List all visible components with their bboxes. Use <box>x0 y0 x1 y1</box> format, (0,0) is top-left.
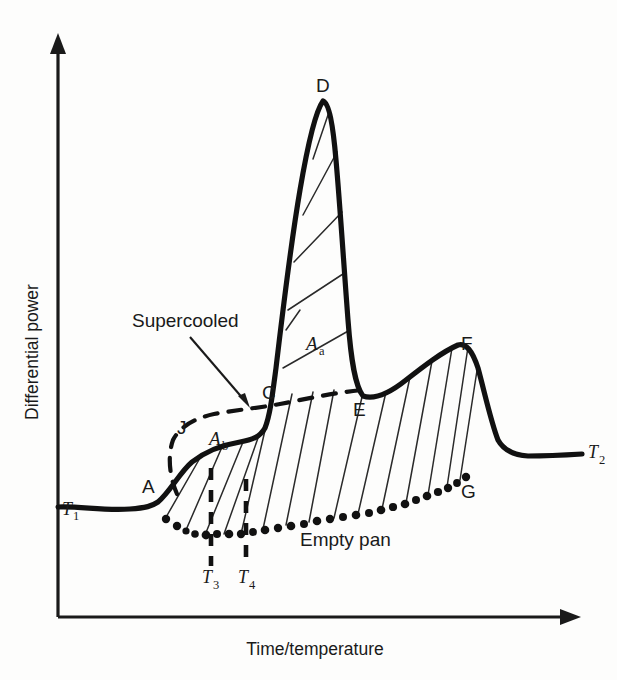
temp-label-t3-sub: 3 <box>213 578 219 592</box>
sample-curve <box>58 101 582 509</box>
supercooled-label: Supercooled <box>132 310 239 331</box>
temp-label-t2: T 2 <box>588 442 605 467</box>
point-label-j: J <box>177 417 187 438</box>
x-axis-arrowhead <box>560 609 581 625</box>
point-label-d: D <box>316 75 330 96</box>
area-label-aa-base: A <box>304 333 318 354</box>
temp-label-t2-sub: 2 <box>599 453 605 467</box>
point-label-a: A <box>142 476 155 497</box>
temp-label-t4-sub: 4 <box>249 578 256 592</box>
point-label-e: E <box>353 399 366 420</box>
y-axis-label: Differential power <box>22 284 42 420</box>
dsc-chart-svg: Differential power Time/temperature <box>0 0 617 680</box>
temp-label-t1: T 1 <box>62 499 79 523</box>
area-label-ab-sub: b <box>222 439 228 453</box>
y-axis-arrowhead <box>50 33 66 54</box>
temp-label-t4: T 4 <box>238 567 256 592</box>
point-label-f: F <box>461 333 473 354</box>
temp-label-t3: T 3 <box>202 567 219 592</box>
supercooled-dashed-curve <box>170 390 362 494</box>
empty-pan-label: Empty pan <box>300 529 391 550</box>
point-label-c: C <box>262 382 276 403</box>
area-label-aa-sub: a <box>319 344 325 358</box>
temp-label-t1-sub: 1 <box>73 509 79 523</box>
area-label-ab-base: A <box>207 428 221 449</box>
supercooled-arrow <box>190 337 250 408</box>
dsc-figure: Differential power Time/temperature <box>0 0 617 680</box>
x-axis-label: Time/temperature <box>246 639 383 659</box>
point-label-g: G <box>461 481 476 502</box>
